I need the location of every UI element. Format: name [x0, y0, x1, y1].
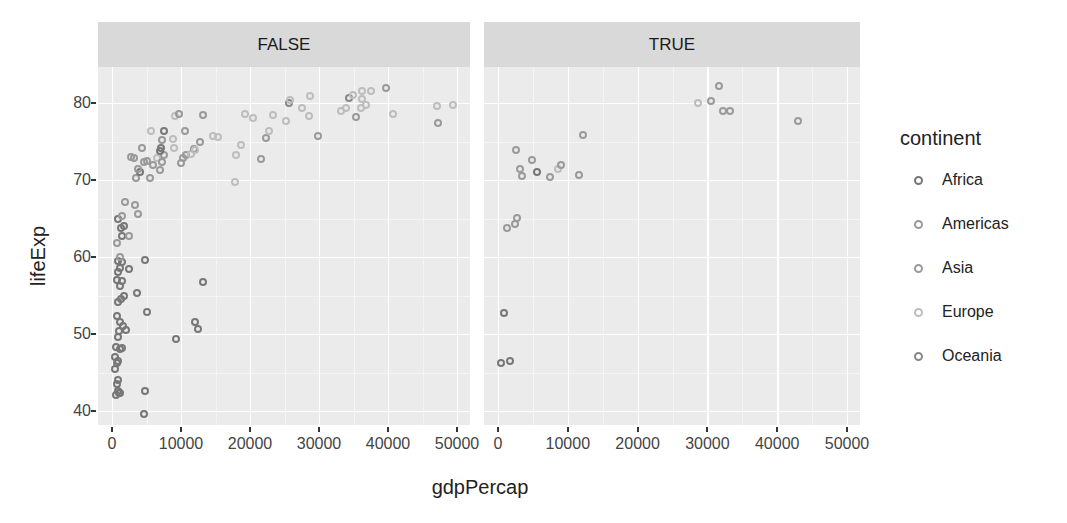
circle-marker-icon	[914, 308, 923, 317]
data-point	[518, 172, 526, 180]
data-point	[175, 110, 183, 118]
data-point	[349, 91, 357, 99]
data-point	[232, 151, 240, 159]
legend-key-icon	[906, 212, 930, 236]
data-point	[528, 156, 536, 164]
data-point	[434, 119, 442, 127]
data-point	[500, 309, 508, 317]
data-point	[116, 253, 124, 261]
legend-label: Oceania	[942, 347, 1002, 365]
data-point	[146, 174, 154, 182]
gridline-minor	[147, 67, 148, 425]
x-tick-mark	[846, 427, 848, 432]
legend-item-europe: Europe	[900, 290, 1009, 334]
data-point	[362, 101, 370, 109]
gridline-major	[847, 67, 848, 425]
legend-item-oceania: Oceania	[900, 334, 1009, 378]
data-point	[140, 410, 148, 418]
data-point	[143, 308, 151, 316]
x-tick-label: 0	[494, 435, 503, 453]
data-point	[342, 104, 350, 112]
gridline-major	[181, 67, 182, 425]
data-point	[199, 111, 207, 119]
data-point	[726, 107, 734, 115]
x-tick-label: 20000	[228, 435, 273, 453]
x-tick-label: 30000	[297, 435, 342, 453]
gridline-minor	[812, 67, 813, 425]
data-point	[141, 387, 149, 395]
x-tick-label: 0	[108, 435, 117, 453]
data-point	[138, 144, 146, 152]
data-point	[241, 110, 249, 118]
x-tick-mark	[387, 427, 389, 432]
data-point	[305, 112, 313, 120]
data-point	[157, 144, 165, 152]
legend-item-africa: Africa	[900, 158, 1009, 202]
legend-item-americas: Americas	[900, 202, 1009, 246]
legend-key-icon	[906, 300, 930, 324]
data-point	[141, 256, 149, 264]
gridline-major	[707, 67, 708, 425]
facet-label-false: FALSE	[258, 35, 311, 55]
x-tick-mark	[776, 427, 778, 432]
y-tick-mark	[91, 179, 96, 181]
y-axis-title: lifeExp	[27, 226, 50, 286]
x-tick-label: 50000	[435, 435, 480, 453]
data-point	[367, 87, 375, 95]
y-tick-mark	[91, 102, 96, 104]
data-point	[306, 92, 314, 100]
data-point	[533, 168, 541, 176]
data-point	[237, 141, 245, 149]
data-point	[156, 166, 164, 174]
x-tick-label: 50000	[825, 435, 870, 453]
data-point	[199, 278, 207, 286]
data-point	[113, 239, 121, 247]
data-point	[125, 265, 133, 273]
x-tick-mark	[497, 427, 499, 432]
legend-key-icon	[906, 344, 930, 368]
data-point	[134, 210, 142, 218]
x-axis-title: gdpPercap	[0, 476, 960, 499]
gridline-major	[498, 67, 499, 425]
data-point	[120, 292, 128, 300]
gridline-major	[457, 67, 458, 425]
data-point	[433, 102, 441, 110]
data-point	[118, 277, 126, 285]
x-tick-label: 10000	[546, 435, 591, 453]
y-tick-label: 60	[73, 248, 91, 266]
y-tick-mark	[91, 410, 96, 412]
legend-key-icon	[906, 256, 930, 280]
circle-marker-icon	[914, 176, 923, 185]
data-point	[147, 127, 155, 135]
data-point	[120, 222, 128, 230]
y-tick-label: 50	[73, 325, 91, 343]
data-point	[191, 146, 199, 154]
y-tick-mark	[91, 256, 96, 258]
data-point	[382, 84, 390, 92]
facet-label-true: TRUE	[649, 35, 695, 55]
gridline-minor	[423, 67, 424, 425]
data-point	[181, 127, 189, 135]
gridline-major	[777, 67, 778, 425]
data-point	[579, 131, 587, 139]
facet-strip-true: TRUE	[484, 22, 860, 67]
circle-marker-icon	[914, 352, 923, 361]
y-tick-label: 40	[73, 402, 91, 420]
data-point	[694, 99, 702, 107]
data-point	[249, 114, 257, 122]
data-point	[389, 110, 397, 118]
data-point	[196, 138, 204, 146]
legend-label: Americas	[942, 215, 1009, 233]
data-point	[449, 101, 457, 109]
gridline-minor	[603, 67, 604, 425]
data-point	[557, 161, 565, 169]
data-point	[506, 357, 514, 365]
x-tick-label: 40000	[755, 435, 800, 453]
x-tick-mark	[567, 427, 569, 432]
y-tick-mark	[91, 333, 96, 335]
x-tick-mark	[318, 427, 320, 432]
data-point	[286, 96, 294, 104]
data-point	[133, 289, 141, 297]
data-point	[131, 201, 139, 209]
legend-key-icon	[906, 168, 930, 192]
